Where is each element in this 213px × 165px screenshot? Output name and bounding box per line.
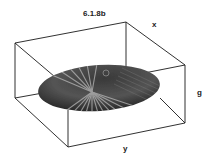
y-axis-label: y	[123, 145, 127, 153]
x-axis-label: x	[152, 21, 156, 29]
z-axis-label: g	[197, 89, 202, 97]
disc-surface	[37, 58, 162, 120]
chart-title: 6.1.8b	[83, 10, 106, 18]
surface-plot	[0, 0, 213, 165]
